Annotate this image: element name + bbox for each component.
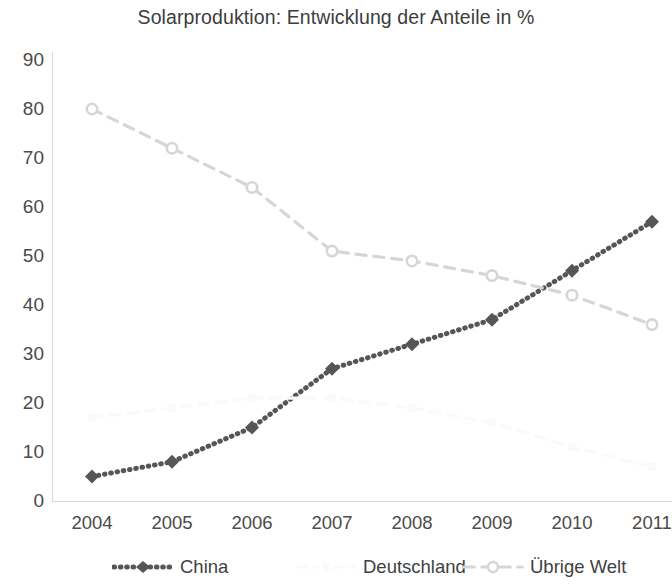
x-tick-label: 2010 [551,512,592,534]
x-tick-label: 2009 [471,512,512,534]
legend-swatch-diamond-icon [112,559,174,575]
legend-swatch-square-icon [295,559,357,575]
x-tick-label: 2008 [391,512,432,534]
legend-item--brige-welt[interactable]: Übrige Welt [462,556,626,578]
legend-label: Übrige Welt [530,556,626,578]
legend-swatch-circle-icon [462,559,524,575]
x-tick-label: 2006 [231,512,272,534]
legend-label: China [180,556,228,578]
legend-item-china[interactable]: China [112,556,228,578]
legend-item-deutschland[interactable]: Deutschland [295,556,466,578]
legend-label: Deutschland [363,556,466,578]
x-tick-label: 2011 [632,512,672,534]
chart-legend: ChinaDeutschlandÜbrige Welt [0,552,672,586]
x-axis: 20042005200620072008200920102011 [0,0,672,586]
x-tick-label: 2005 [151,512,192,534]
x-tick-label: 2004 [71,512,112,534]
x-tick-label: 2007 [311,512,352,534]
chart-root: Solarproduktion: Entwicklung der Anteile… [0,0,672,586]
